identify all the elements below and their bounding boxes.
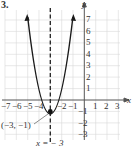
y-tick: 7	[86, 15, 91, 24]
y-tick: −3	[78, 130, 88, 139]
y-axis-label: y	[82, 0, 86, 9]
x-tick: −7	[1, 102, 11, 111]
y-tick: 3	[86, 61, 91, 70]
arrow-left	[25, 14, 30, 21]
x-tick: −2	[57, 102, 67, 111]
vertex-point	[48, 109, 53, 114]
x-tick: 1	[93, 102, 98, 111]
arrow-right	[71, 14, 76, 21]
x-tick: 3	[115, 102, 120, 111]
axis-of-symmetry-label: x = − 3	[36, 139, 63, 148]
x-tick: −5	[23, 102, 33, 111]
x-tick: 2	[104, 102, 109, 111]
y-tick: 1	[86, 84, 91, 93]
y-tick: −2	[78, 119, 88, 128]
y-tick: 5	[86, 38, 91, 47]
vertex-label: (−3, −1)	[1, 121, 31, 130]
y-tick: 4	[86, 50, 91, 59]
y-tick: 2	[86, 73, 91, 82]
y-tick: −1	[78, 107, 88, 116]
problem-number: 3.	[1, 0, 9, 10]
x-tick: −6	[12, 102, 22, 111]
x-tick: −1	[68, 102, 78, 111]
x-axis-label: x	[127, 96, 131, 105]
y-tick: 6	[86, 27, 91, 36]
vertex-leader	[34, 114, 48, 124]
x-tick: −4	[34, 102, 44, 111]
